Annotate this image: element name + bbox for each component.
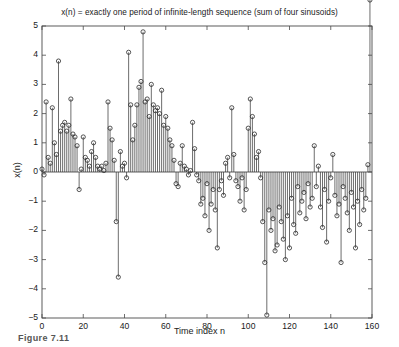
x-tick-label: 60 [154, 321, 178, 331]
y-tick-label: 3 [14, 78, 38, 88]
figure-caption: Figure 7.11 [18, 333, 69, 343]
y-tick-label: 1 [14, 137, 38, 147]
x-tick-label: 40 [113, 321, 137, 331]
y-tick-label: −1 [14, 195, 38, 205]
y-tick-label: 2 [14, 108, 38, 118]
y-tick-label: −5 [14, 312, 38, 322]
x-tick-label: 0 [30, 321, 54, 331]
stem-plot-svg [0, 0, 399, 347]
data-series [40, 0, 372, 317]
y-tick-label: 4 [14, 49, 38, 59]
x-tick-label: 160 [360, 321, 384, 331]
y-tick-label: 0 [14, 166, 38, 176]
x-tick-label: 120 [278, 321, 302, 331]
y-tick-label: −3 [14, 254, 38, 264]
y-tick-label: −4 [14, 283, 38, 293]
x-tick-label: 100 [236, 321, 260, 331]
y-tick-label: 5 [14, 20, 38, 30]
figure-container: x(n) = exactly one period of infinite-le… [0, 0, 399, 347]
x-tick-label: 20 [71, 321, 95, 331]
y-tick-label: −2 [14, 224, 38, 234]
x-tick-label: 140 [319, 321, 343, 331]
x-tick-label: 80 [195, 321, 219, 331]
